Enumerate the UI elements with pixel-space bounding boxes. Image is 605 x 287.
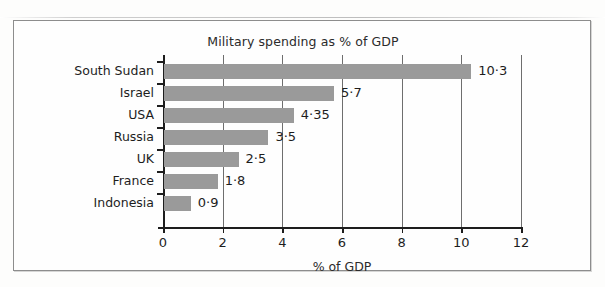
x-axis-tick <box>282 227 284 233</box>
bar[interactable] <box>164 86 334 101</box>
plot-area: South Sudan10·3Israel5·7USA4·35Russia3·5… <box>163 59 521 227</box>
bar-row[interactable]: France1·8 <box>163 171 521 193</box>
bar-row[interactable]: Indonesia0·9 <box>163 193 521 215</box>
chart-figure-frame: Military spending as % of GDP South Suda… <box>13 20 591 271</box>
x-axis-tick-label: 4 <box>262 235 302 250</box>
scan-artifact-line <box>0 17 605 18</box>
y-axis-tick <box>157 149 163 151</box>
y-axis-tick <box>157 127 163 129</box>
bar-row[interactable]: South Sudan10·3 <box>163 61 521 83</box>
bar[interactable] <box>164 108 294 123</box>
bar[interactable] <box>164 130 268 145</box>
chart-title: Military spending as % of GDP <box>14 34 592 49</box>
category-label: USA <box>128 107 154 122</box>
bar[interactable] <box>164 196 191 211</box>
x-axis-title: % of GDP <box>163 259 521 274</box>
y-axis-tick <box>157 61 163 63</box>
bar-value-label: 5·7 <box>341 85 362 100</box>
bar-row[interactable]: UK2·5 <box>163 149 521 171</box>
bar-row[interactable]: USA4·35 <box>163 105 521 127</box>
bar[interactable] <box>164 174 218 189</box>
x-axis-tick <box>402 227 404 233</box>
bar-row[interactable]: Israel5·7 <box>163 83 521 105</box>
bar-value-label: 3·5 <box>275 129 296 144</box>
x-axis-tick-label: 6 <box>322 235 362 250</box>
x-axis-tick-label: 10 <box>441 235 481 250</box>
category-label: France <box>112 173 154 188</box>
category-label: Indonesia <box>94 195 154 210</box>
category-label: Israel <box>120 85 154 100</box>
y-axis-tick <box>157 171 163 173</box>
x-axis-tick <box>163 227 165 233</box>
x-axis-tick-label: 0 <box>143 235 183 250</box>
bar-value-label: 1·8 <box>225 173 246 188</box>
bar-row[interactable]: Russia3·5 <box>163 127 521 149</box>
category-label: UK <box>137 151 154 166</box>
bar[interactable] <box>164 64 471 79</box>
category-label: Russia <box>114 129 154 144</box>
x-axis-tick <box>342 227 344 233</box>
bar-value-label: 4·35 <box>301 107 330 122</box>
x-axis-line <box>158 227 523 229</box>
x-axis-tick-label: 8 <box>382 235 422 250</box>
bar-value-label: 2·5 <box>246 151 267 166</box>
gridline <box>521 55 522 227</box>
x-axis-tick <box>461 227 463 233</box>
bar[interactable] <box>164 152 239 167</box>
category-label: South Sudan <box>74 63 154 78</box>
x-axis-tick <box>521 227 523 233</box>
y-axis-tick <box>157 83 163 85</box>
bar-value-label: 10·3 <box>478 63 507 78</box>
y-axis-tick <box>157 193 163 195</box>
x-axis-tick-label: 2 <box>203 235 243 250</box>
x-axis-tick <box>223 227 225 233</box>
y-axis-tick <box>157 105 163 107</box>
bar-value-label: 0·9 <box>198 195 219 210</box>
x-axis-tick-label: 12 <box>501 235 541 250</box>
